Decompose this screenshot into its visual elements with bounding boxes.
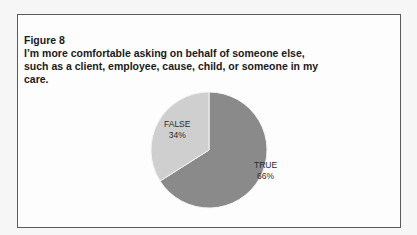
slice-name: FALSE — [164, 119, 190, 130]
slice-percent: 34% — [164, 130, 190, 141]
slice-label-true: TRUE 66% — [254, 160, 277, 182]
slice-name: TRUE — [254, 160, 277, 171]
slice-percent: 66% — [254, 171, 277, 182]
slice-label-false: FALSE 34% — [164, 119, 190, 141]
pie-chart — [0, 0, 417, 235]
